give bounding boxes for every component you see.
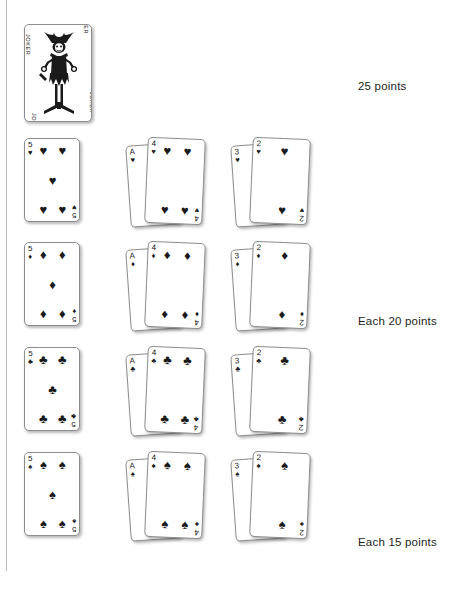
clubs-suit-icon: ♣ <box>235 365 240 373</box>
playing-card-4-diamonds[interactable]: 4 ♦ 4 ♦ ♦ ♦ ♦ ♦ <box>144 241 206 329</box>
pip-field: ♥ ♥ <box>250 138 310 224</box>
pip: ♣ <box>58 411 67 424</box>
pip: ♣ <box>39 411 48 424</box>
pip-field: ♣ ♣ ♣ ♣ ♣ <box>25 348 79 430</box>
card-values-sheet: JOKER JOKER JOKER JOKER <box>0 0 468 589</box>
pip: ♥ <box>49 174 57 187</box>
pip-field: ♣ ♣ ♣ ♣ <box>145 347 205 433</box>
pip: ♠ <box>278 518 285 531</box>
pip-field: ♠ ♠ ♠ ♠ ♠ <box>25 453 79 535</box>
pip: ♠ <box>49 488 56 501</box>
corner-index-top-left: A ♣ <box>129 357 135 373</box>
pip: ♥ <box>40 202 48 215</box>
playing-card-joker[interactable]: JOKER JOKER JOKER JOKER <box>24 24 92 122</box>
pip: ♠ <box>164 458 171 471</box>
corner-index-top-left: 3 ♠ <box>234 462 240 478</box>
diamonds-pair-32-slot: 3 ♦ 2 ♦ 2 ♦ ♦ ♦ <box>233 242 333 346</box>
row-joker: JOKER JOKER JOKER JOKER <box>0 24 468 128</box>
hearts-suit-icon: ♥ <box>235 156 240 164</box>
pip: ♣ <box>180 413 189 426</box>
playing-card-4-clubs[interactable]: 4 ♣ 4 ♣ ♣ ♣ ♣ ♣ <box>144 346 206 434</box>
pip: ♠ <box>40 458 47 471</box>
playing-card-5-diamonds[interactable]: 5 ♦ 5 ♦ ♦ ♦ ♦ ♦ ♦ <box>24 242 80 326</box>
pip: ♦ <box>161 307 168 320</box>
pip-field: ♠ ♠ ♠ ♠ <box>145 452 205 538</box>
pip: ♦ <box>181 308 188 321</box>
spades-pair-a4-slot: A ♠ 4 ♠ 4 ♠ ♠ ♠ ♠ ♠ <box>128 452 228 556</box>
pip: ♣ <box>39 353 48 366</box>
playing-card-5-clubs[interactable]: 5 ♣ 5 ♣ ♣ ♣ ♣ ♣ ♣ <box>24 347 80 431</box>
pip-field: ♦ ♦ ♦ ♦ <box>145 242 205 328</box>
corner-index-top-left: A ♥ <box>129 148 135 164</box>
pip: ♠ <box>281 458 288 471</box>
pip: ♥ <box>161 203 169 216</box>
pip: ♣ <box>278 413 287 426</box>
pip: ♥ <box>58 202 66 215</box>
spades-suit-icon: ♠ <box>131 470 136 478</box>
pip: ♥ <box>181 204 189 217</box>
corner-index-top-left: A ♦ <box>129 252 135 268</box>
pip: ♣ <box>160 412 169 425</box>
spades-suit-icon: ♠ <box>235 470 240 478</box>
pip-field: ♣ ♣ <box>250 347 310 433</box>
spades-single-card-slot: 5 ♠ 5 ♠ ♠ ♠ ♠ ♠ ♠ <box>24 452 104 552</box>
row-diamonds: 5 ♦ 5 ♦ ♦ ♦ ♦ ♦ ♦ A ♦ <box>0 242 468 342</box>
playing-card-4-hearts[interactable]: 4 ♥ 4 ♥ ♥ ♥ ♥ ♥ <box>144 137 206 225</box>
pip: ♥ <box>281 144 289 157</box>
pip-field: ♦ ♦ ♦ ♦ ♦ <box>25 243 79 325</box>
pip: ♦ <box>278 308 285 321</box>
hearts-suit-icon: ♥ <box>130 156 135 164</box>
clubs-single-card-slot: 5 ♣ 5 ♣ ♣ ♣ ♣ ♣ ♣ <box>24 347 104 447</box>
row-clubs: 5 ♣ 5 ♣ ♣ ♣ ♣ ♣ ♣ A ♣ <box>0 347 468 447</box>
points-label-joker: 25 points <box>358 80 406 92</box>
pip: ♠ <box>161 517 168 530</box>
jester-figure-icon <box>34 29 84 119</box>
pip: ♥ <box>163 144 171 157</box>
joker-word-bottom-right: JOKER <box>89 92 92 113</box>
playing-card-4-spades[interactable]: 4 ♠ 4 ♠ ♠ ♠ ♠ ♠ <box>144 451 206 539</box>
diamonds-single-card-slot: 5 ♦ 5 ♦ ♦ ♦ ♦ ♦ ♦ <box>24 242 104 342</box>
pip: ♣ <box>280 353 289 366</box>
pip: ♦ <box>40 248 47 261</box>
playing-card-5-spades[interactable]: 5 ♠ 5 ♠ ♠ ♠ ♠ ♠ ♠ <box>24 452 80 536</box>
pip: ♥ <box>40 144 48 157</box>
pip: ♣ <box>163 353 172 366</box>
playing-card-2-diamonds[interactable]: 2 ♦ 2 ♦ ♦ ♦ <box>249 241 311 329</box>
playing-card-2-spades[interactable]: 2 ♠ 2 ♠ ♠ ♠ <box>249 451 311 539</box>
diamonds-pair-a4-slot: A ♦ 4 ♦ 4 ♦ ♦ ♦ ♦ ♦ <box>128 242 228 346</box>
pip: ♠ <box>184 459 191 472</box>
pip: ♦ <box>59 248 66 261</box>
pip: ♣ <box>58 353 67 366</box>
corner-index-top-left: 3 ♣ <box>234 357 240 373</box>
hearts-pair-a4-slot: A ♥ 4 ♥ 4 ♥ ♥ ♥ ♥ ♥ <box>128 138 228 242</box>
pip-field: ♦ ♦ <box>250 242 310 328</box>
diamonds-suit-icon: ♦ <box>131 260 135 268</box>
pip-field: ♠ ♠ <box>250 452 310 538</box>
pip: ♦ <box>49 278 56 291</box>
pip: ♥ <box>58 144 66 157</box>
pip: ♣ <box>183 354 192 367</box>
clubs-pair-32-slot: 3 ♣ 2 ♣ 2 ♣ ♣ ♣ <box>233 347 333 451</box>
playing-card-2-clubs[interactable]: 2 ♣ 2 ♣ ♣ ♣ <box>249 346 311 434</box>
pip: ♠ <box>40 516 47 529</box>
pip: ♦ <box>59 306 66 319</box>
pip-field: ♥ ♥ ♥ ♥ <box>145 138 205 224</box>
clubs-suit-icon: ♣ <box>130 365 135 373</box>
pip: ♠ <box>59 516 66 529</box>
corner-index-top-left: A ♠ <box>129 462 135 478</box>
diamonds-suit-icon: ♦ <box>235 260 239 268</box>
playing-card-5-hearts[interactable]: 5 ♥ 5 ♥ ♥ ♥ ♥ ♥ ♥ <box>24 138 80 222</box>
hearts-single-card-slot: 5 ♥ 5 ♥ ♥ ♥ ♥ ♥ ♥ <box>24 138 104 238</box>
joker-word-top-left: JOKER <box>25 34 31 55</box>
pip: ♠ <box>181 518 188 531</box>
playing-card-2-hearts[interactable]: 2 ♥ 2 ♥ ♥ ♥ <box>249 137 311 225</box>
corner-index-top-left: 3 ♥ <box>234 148 240 164</box>
pip: ♥ <box>183 145 191 158</box>
row-spades: 5 ♠ 5 ♠ ♠ ♠ ♠ ♠ ♠ A ♠ <box>0 452 468 552</box>
pip: ♥ <box>278 204 286 217</box>
pip: ♦ <box>281 248 288 261</box>
hearts-pair-32-slot: 3 ♥ 2 ♥ 2 ♥ ♥ ♥ <box>233 138 333 242</box>
pip-field: ♥ ♥ ♥ ♥ ♥ <box>25 139 79 221</box>
pip: ♣ <box>48 383 57 396</box>
spades-pair-32-slot: 3 ♠ 2 ♠ 2 ♠ ♠ ♠ <box>233 452 333 556</box>
